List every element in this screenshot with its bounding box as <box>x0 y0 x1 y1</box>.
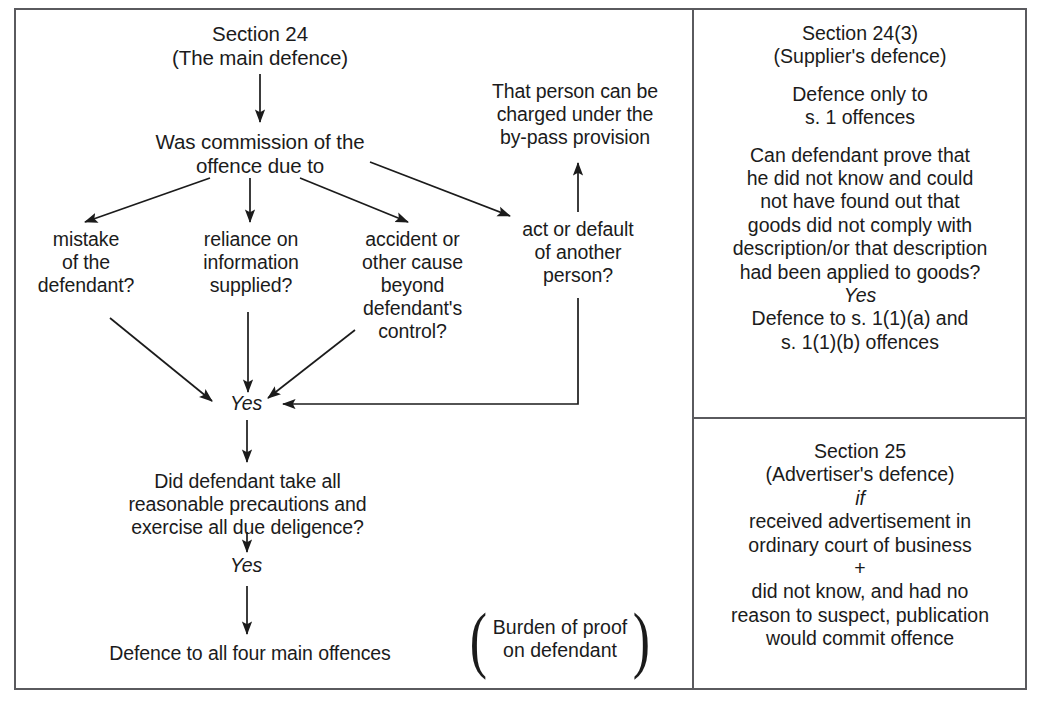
branch-accident: accident or other cause beyond defendant… <box>330 228 495 343</box>
main-question: Was commission of the offence due to <box>95 130 425 178</box>
panel-section-24-3: Section 24(3) (Supplier's defence) Defen… <box>700 22 1020 354</box>
panel-section-25: Section 25 (Advertiser's defence) if rec… <box>700 440 1020 651</box>
bypass-provision-note: That person can be charged under the by-… <box>460 80 690 149</box>
section-25-heading: Section 25 (Advertiser's defence) <box>700 440 1020 487</box>
diagram-page: Section 24 (The main defence) Was commis… <box>0 0 1044 719</box>
section-25-if: if <box>700 487 1020 510</box>
section-24-3-question: Can defendant prove that he did not know… <box>700 144 1020 284</box>
horizontal-divider <box>692 417 1027 419</box>
burden-of-proof-group: ( Burden of proof on defendant ) <box>452 602 668 676</box>
vertical-divider <box>692 8 694 690</box>
right-paren: ) <box>633 602 650 676</box>
section-25-condition-1: received advertisement in ordinary court… <box>700 510 1020 557</box>
section-25-plus: + <box>700 557 1020 580</box>
outcome-defence-all-four: Defence to all four main offences <box>40 642 460 665</box>
section-24-3-heading: Section 24(3) (Supplier's defence) <box>700 22 1020 69</box>
branch-act-or-default: act or default of another person? <box>478 218 678 287</box>
second-question: Did defendant take all reasonable precau… <box>85 470 410 539</box>
branch-reliance: reliance on information supplied? <box>160 228 342 297</box>
section-24-3-outcome: Defence to s. 1(1)(a) and s. 1(1)(b) off… <box>700 307 1020 354</box>
burden-of-proof-text: Burden of proof on defendant <box>491 616 629 663</box>
branch-mistake: mistake of the defendant? <box>10 228 162 297</box>
section-24-3-yes: Yes <box>700 284 1020 307</box>
yes-label-1: Yes <box>205 392 287 415</box>
left-paren: ( <box>470 602 487 676</box>
section-24-heading: Section 24 (The main defence) <box>120 22 400 70</box>
section-24-3-scope: Defence only to s. 1 offences <box>700 83 1020 130</box>
spacer <box>700 69 1020 83</box>
yes-label-2: Yes <box>205 554 287 577</box>
section-25-condition-2: did not know, and had no reason to suspe… <box>700 580 1020 650</box>
spacer <box>700 130 1020 144</box>
